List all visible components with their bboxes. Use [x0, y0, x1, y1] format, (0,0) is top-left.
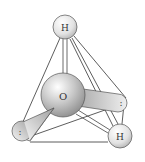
hydrogen-bottom-label: H	[116, 132, 124, 142]
oxygen-atom: O	[41, 73, 85, 117]
bond-o-h-bottom	[76, 110, 110, 133]
lone-pair-left-dots: :	[18, 127, 21, 137]
lone-pair-left: :	[12, 108, 54, 141]
bond-o-h-top	[63, 39, 67, 74]
oxygen-label: O	[59, 91, 67, 102]
water-molecule-diagram: : O : H H	[0, 0, 145, 162]
lone-pair-right-dots: :	[119, 98, 122, 108]
hydrogen-atom-bottom-right: H	[108, 124, 132, 148]
hydrogen-top-label: H	[61, 23, 69, 33]
hydrogen-atom-top: H	[53, 15, 77, 39]
